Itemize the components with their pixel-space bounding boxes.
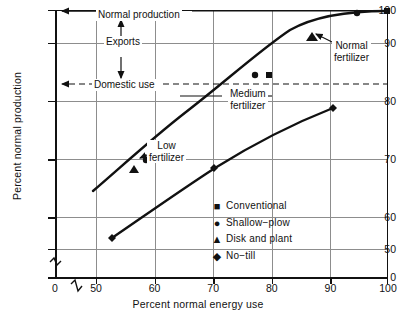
- legend-item-shallow-plow: ● Shallow−plow: [210, 215, 292, 232]
- square-marker-icon: ■: [210, 198, 224, 215]
- annotation-medium-fertilizer: Medium fertilizer: [228, 88, 268, 111]
- annotation-low-fertilizer: Low fertilizer: [147, 140, 186, 163]
- point-shallow-plow-3: [354, 10, 360, 16]
- diamond-marker-icon: ◆: [210, 248, 224, 265]
- annotation-medium-fertilizer-line1: Medium: [230, 88, 266, 100]
- annotation-exports: Exports: [104, 36, 142, 48]
- legend-item-no-till: ◆ No−till: [210, 248, 292, 265]
- annotation-low-fertilizer-line2: fertilizer: [149, 152, 184, 164]
- legend-item-conventional: ■ Conventional: [210, 198, 292, 215]
- triangle-marker-icon: ▲: [210, 231, 224, 248]
- legend-label-no-till: No−till: [224, 248, 255, 265]
- point-no-till-3: [329, 104, 337, 112]
- circle-marker-icon: ●: [210, 215, 224, 232]
- annotation-normal-fertilizer: Normal fertilizer: [332, 40, 371, 63]
- point-disk-and-plant-2: [306, 32, 318, 41]
- y-axis-title: Percent normal production: [11, 36, 23, 236]
- annotation-normal-fertilizer-line1: Normal: [334, 40, 369, 52]
- x-axis-break-mark: [71, 280, 82, 291]
- annotation-medium-fertilizer-line2: fertilizer: [230, 100, 266, 112]
- point-disk-and-plant-1: [129, 165, 139, 173]
- annotation-normal-production: Normal production: [96, 9, 182, 21]
- point-conventional-2: [266, 72, 272, 78]
- y-axis-break-mark: [50, 258, 61, 265]
- legend-item-disk-and-plant: ▲ Disk and plant: [210, 231, 292, 248]
- legend-label-disk-and-plant: Disk and plant: [224, 231, 292, 248]
- point-conventional-3: [384, 8, 390, 14]
- chart-legend: ■ Conventional ● Shallow−plow ▲ Disk and…: [210, 198, 292, 264]
- legend-label-shallow-plow: Shallow−plow: [224, 215, 290, 232]
- annotation-low-fertilizer-line1: Low: [149, 140, 184, 152]
- point-shallow-plow-2: [252, 72, 258, 78]
- annotation-domestic-use: Domestic use: [92, 79, 157, 91]
- legend-label-conventional: Conventional: [224, 198, 287, 215]
- annotation-normal-fertilizer-line2: fertilizer: [334, 52, 369, 64]
- x-axis-title: Percent normal energy use: [0, 298, 396, 310]
